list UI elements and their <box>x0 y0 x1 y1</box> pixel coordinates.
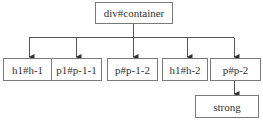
node-h1-h-1: h1#h-1 <box>3 58 52 81</box>
node-p-p-1-2: p#p-1-2 <box>107 58 158 81</box>
node-root: div#container <box>95 2 173 24</box>
node-strong: strong <box>195 95 259 118</box>
node-p1-p-1-1: p1#p-1-1 <box>51 58 102 81</box>
node-h1-h-2: h1#h-2 <box>162 58 208 81</box>
node-p-p-2: p#p-2 <box>210 58 261 81</box>
